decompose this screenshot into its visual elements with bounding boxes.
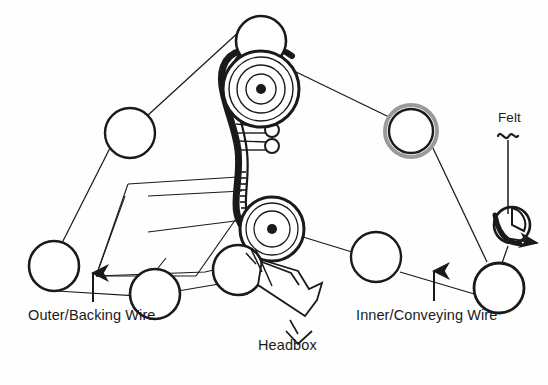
forming-roll-upper <box>223 51 299 127</box>
breast-roll <box>213 245 263 295</box>
label-headbox: Headbox <box>258 337 317 353</box>
label-inner-conveying-wire: Inner/Conveying Wire <box>356 307 497 323</box>
shower-roll-lower <box>265 139 279 153</box>
upper-left-guide-roll <box>105 108 155 158</box>
machine-schematic <box>0 0 548 385</box>
headbox-nozzle <box>258 260 322 316</box>
twin-wire-former-diagram: Outer/Backing Wire Inner/Conveying Wire … <box>0 0 548 385</box>
headbox-pointer <box>290 320 298 334</box>
label-outer-backing-wire: Outer/Backing Wire <box>28 307 156 323</box>
label-felt: Felt <box>498 110 521 125</box>
felt-pointer-wave-icon <box>498 134 518 138</box>
couch-roll <box>474 263 524 313</box>
lower-left-guide-roll <box>29 241 79 291</box>
upper-right-guide-roll <box>385 105 437 157</box>
lower-right-guide-roll <box>351 232 401 282</box>
